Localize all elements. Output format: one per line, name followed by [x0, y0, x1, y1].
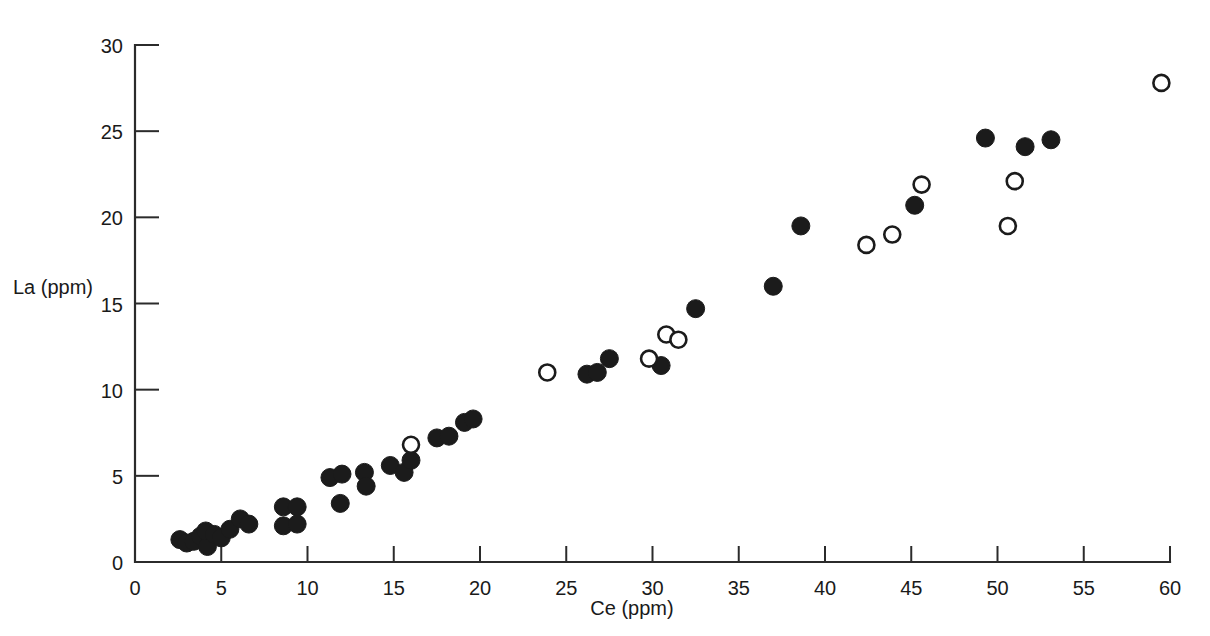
- x-tick-label: 35: [728, 577, 750, 599]
- data-point-open: [858, 237, 874, 253]
- data-point-open: [1007, 173, 1023, 189]
- data-point-filled: [792, 217, 810, 235]
- x-tick-label: 25: [555, 577, 577, 599]
- data-point-filled: [288, 498, 306, 516]
- y-tick-label: 30: [101, 35, 123, 57]
- data-point-filled: [1042, 131, 1060, 149]
- data-point-filled: [906, 196, 924, 214]
- x-tick-label: 0: [129, 577, 140, 599]
- data-point-open: [884, 227, 900, 243]
- x-tick-label: 55: [1073, 577, 1095, 599]
- data-point-filled: [440, 427, 458, 445]
- y-tick-label: 20: [101, 207, 123, 229]
- data-point-filled: [240, 515, 258, 533]
- x-tick-label: 10: [296, 577, 318, 599]
- data-point-open: [1000, 218, 1016, 234]
- x-tick-label: 5: [216, 577, 227, 599]
- x-tick-label: 20: [469, 577, 491, 599]
- y-axis-label: La (ppm): [13, 276, 93, 298]
- data-point-open: [539, 364, 555, 380]
- axis-lines: [135, 45, 1170, 562]
- scatter-plot-figure: 051015202530354045505560051015202530 Ce …: [0, 0, 1210, 636]
- data-point-filled: [357, 477, 375, 495]
- x-tick-label: 15: [383, 577, 405, 599]
- data-point-open: [641, 351, 657, 367]
- data-point-filled: [976, 129, 994, 147]
- tick-group: [135, 45, 1170, 562]
- data-point-filled: [331, 494, 349, 512]
- data-point-filled: [288, 515, 306, 533]
- data-point-open: [914, 177, 930, 193]
- x-tick-label: 40: [814, 577, 836, 599]
- tick-label-group: 051015202530354045505560051015202530: [101, 35, 1181, 599]
- data-point-filled: [600, 350, 618, 368]
- plot-canvas: 051015202530354045505560051015202530 Ce …: [0, 0, 1210, 636]
- data-point-filled: [333, 465, 351, 483]
- data-point-open: [403, 437, 419, 453]
- data-point-filled: [1016, 138, 1034, 156]
- x-axis-label: Ce (ppm): [590, 597, 673, 619]
- x-tick-label: 50: [986, 577, 1008, 599]
- axis-group: [135, 45, 1170, 562]
- data-point-open: [1153, 75, 1169, 91]
- data-point-filled: [764, 277, 782, 295]
- y-tick-label: 5: [112, 466, 123, 488]
- x-tick-label: 60: [1159, 577, 1181, 599]
- data-point-open: [670, 332, 686, 348]
- y-tick-label: 25: [101, 121, 123, 143]
- x-tick-label: 30: [641, 577, 663, 599]
- data-point-filled: [687, 300, 705, 318]
- x-tick-label: 45: [900, 577, 922, 599]
- y-tick-label: 0: [112, 552, 123, 574]
- data-points-group: [171, 75, 1170, 556]
- data-point-filled: [464, 410, 482, 428]
- y-tick-label: 15: [101, 294, 123, 316]
- y-tick-label: 10: [101, 380, 123, 402]
